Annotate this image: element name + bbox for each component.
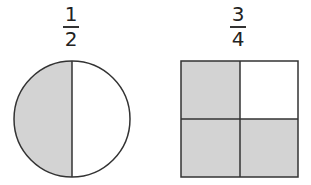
shaded-bottom-left bbox=[181, 119, 240, 177]
half-circle-figure bbox=[14, 61, 130, 177]
fraction-diagram bbox=[0, 0, 311, 185]
shaded-half bbox=[14, 61, 72, 177]
quarter-square-figure bbox=[181, 61, 298, 177]
shaded-bottom-right bbox=[240, 119, 298, 177]
shaded-top-left bbox=[181, 61, 240, 119]
